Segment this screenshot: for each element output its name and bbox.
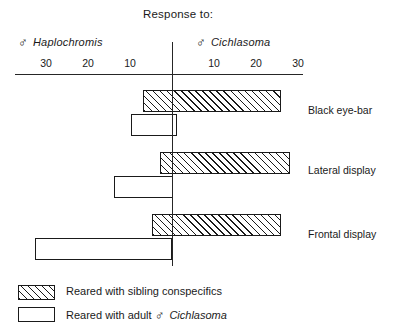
legend-label: Reared with adult ♂Cichlasoma <box>66 307 227 322</box>
category-label-frontal-display: Frontal display <box>308 228 376 240</box>
legend-label-text: Reared with adult <box>66 309 155 321</box>
legend-swatch-hatched <box>18 285 55 300</box>
bar-black-eye-bar-sibling-reared <box>143 90 281 112</box>
figure-response-to-chart: Response to: ♂Haplochromis ♂Cichlasoma 3… <box>0 0 395 334</box>
category-label-black-eye-bar: Black eye-bar <box>308 104 372 116</box>
bar-lateral-display-sibling-reared <box>160 152 290 174</box>
x-tick-label: 20 <box>244 57 268 69</box>
male-symbol-icon: ♂ <box>155 308 165 323</box>
left-axis-species: Haplochromis <box>33 36 103 48</box>
x-tick-label: 30 <box>286 57 310 69</box>
right-axis-species: Cichlasoma <box>211 36 270 48</box>
right-axis-header: ♂Cichlasoma <box>196 34 270 49</box>
male-symbol-icon: ♂ <box>196 35 206 50</box>
left-axis-header: ♂Haplochromis <box>18 34 103 49</box>
chart-title: Response to: <box>143 8 213 20</box>
bar-lateral-display-adult-male-reared <box>114 176 173 198</box>
x-axis-line <box>15 74 303 75</box>
x-tick-label: 10 <box>118 57 142 69</box>
x-tick-label: 20 <box>76 57 100 69</box>
legend-label-species: Cichlasoma <box>169 309 226 321</box>
zero-baseline <box>172 42 173 266</box>
male-symbol-icon: ♂ <box>18 35 28 50</box>
bar-black-eye-bar-adult-male-reared <box>131 114 177 136</box>
legend-label: Reared with sibling conspecifics <box>66 285 222 297</box>
category-label-lateral-display: Lateral display <box>308 164 376 176</box>
legend-swatch-white <box>18 307 55 322</box>
x-tick-label: 30 <box>34 57 58 69</box>
bar-frontal-display-adult-male-reared <box>35 238 173 260</box>
x-tick-label: 10 <box>202 57 226 69</box>
